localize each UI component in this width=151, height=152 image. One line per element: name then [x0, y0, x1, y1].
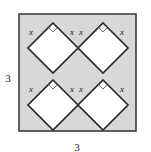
side-label-left: x: [78, 84, 83, 94]
geometry-figure: 3 3 x x x x x x x x: [0, 0, 151, 152]
left-dimension-label: 3: [5, 72, 11, 84]
side-label-right: x: [119, 84, 124, 94]
side-label-right: x: [69, 27, 74, 37]
side-label-right: x: [119, 27, 124, 37]
side-label-left: x: [28, 84, 33, 94]
side-label-left: x: [28, 27, 33, 37]
side-label-right: x: [69, 84, 74, 94]
figure-canvas: 3 3 x x x x x x x x: [0, 0, 151, 152]
side-label-left: x: [78, 27, 83, 37]
bottom-dimension-label: 3: [74, 141, 80, 152]
